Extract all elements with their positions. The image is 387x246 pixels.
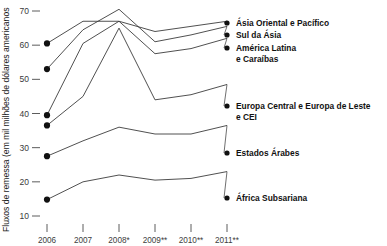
series-start-marker xyxy=(44,197,50,203)
series-line xyxy=(47,172,227,200)
label-anchor-dot xyxy=(224,150,229,155)
series-start-marker xyxy=(44,112,50,118)
chart-canvas: Fluxos de remessa (em mil milhões de dól… xyxy=(0,0,387,246)
series-label-line2: e Caraíbas xyxy=(236,54,279,64)
y-axis-ticks: 70605040302010 xyxy=(20,6,40,221)
x-tick-label: 2009** xyxy=(143,236,168,245)
series-labels-group: Ásia Oriental e PacíficoSul da ÁsiaAméri… xyxy=(236,17,371,203)
x-tick-label: 2006 xyxy=(38,236,57,245)
y-tick-label: 50 xyxy=(20,74,30,84)
label-anchor-dot xyxy=(224,32,229,37)
series-label-line2: e CEI xyxy=(236,112,257,122)
series-label: Sul da Ásia xyxy=(236,29,281,40)
leader-line xyxy=(224,125,227,153)
x-tick-label: 2008* xyxy=(108,236,130,245)
label-anchor-dot xyxy=(224,195,229,200)
y-axis-title: Fluxos de remessa (em mil milhões de dól… xyxy=(1,8,11,232)
series-line xyxy=(47,28,227,125)
series-line xyxy=(47,125,227,156)
y-tick-label: 70 xyxy=(20,6,30,16)
series-markers-group xyxy=(44,40,50,202)
x-tick-label: 2007 xyxy=(74,236,93,245)
series-line xyxy=(47,21,227,115)
y-tick-label: 20 xyxy=(20,177,30,187)
series-start-marker xyxy=(44,40,50,46)
y-tick-label: 60 xyxy=(20,40,30,50)
series-label: Estados Árabes xyxy=(236,147,300,158)
leader-line xyxy=(224,84,227,106)
series-line xyxy=(47,9,227,69)
remittance-flows-line-chart: Fluxos de remessa (em mil milhões de dól… xyxy=(0,0,387,246)
label-anchor-dot xyxy=(224,20,229,25)
series-label: América Latina xyxy=(236,43,296,53)
series-start-marker xyxy=(44,122,50,128)
label-anchor-dot xyxy=(224,45,229,50)
series-label: Europa Central e Europa de Leste xyxy=(236,101,371,111)
series-label: África Subsariana xyxy=(236,192,308,203)
x-tick-label: 2011** xyxy=(215,236,240,245)
x-axis-ticks: 200620072008*2009**2010**2011** xyxy=(38,224,240,245)
x-tick-label: 2010** xyxy=(179,236,204,245)
label-anchor-dot xyxy=(224,103,229,108)
series-start-marker xyxy=(44,66,50,72)
series-label: Ásia Oriental e Pacífico xyxy=(236,17,329,28)
series-start-marker xyxy=(44,153,50,159)
y-tick-label: 30 xyxy=(20,143,30,153)
y-tick-label: 40 xyxy=(20,109,30,119)
series-lines-group xyxy=(47,9,227,199)
y-tick-label: 10 xyxy=(20,211,30,221)
leader-line xyxy=(224,172,227,198)
